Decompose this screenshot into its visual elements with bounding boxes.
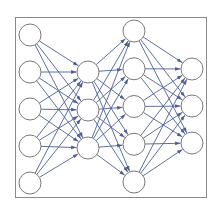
- node-layer1-2: [19, 61, 41, 83]
- node-layer4-2: [181, 95, 203, 117]
- node-layer3-1: [123, 20, 145, 42]
- node-layer1-1: [19, 24, 41, 46]
- node-layer3-5: [123, 171, 145, 193]
- node-layer4-3: [181, 132, 203, 154]
- node-layer3-4: [123, 133, 145, 155]
- node-layer1-3: [19, 98, 41, 120]
- node-layer1-5: [19, 172, 41, 194]
- node-layer2-2: [77, 99, 99, 121]
- node-layer2-1: [77, 61, 99, 83]
- node-layer2-3: [77, 137, 99, 159]
- node-layer1-4: [19, 135, 41, 157]
- node-layer3-3: [123, 96, 145, 118]
- neural-network-diagram: [0, 0, 222, 212]
- node-layer3-2: [123, 58, 145, 80]
- node-layer4-1: [181, 58, 203, 80]
